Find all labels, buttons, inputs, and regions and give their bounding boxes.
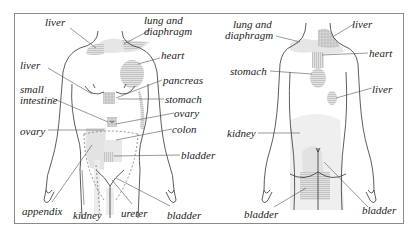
- back-shading: [290, 29, 344, 210]
- label-small: small: [20, 84, 44, 94]
- label-intestine: intestine: [20, 95, 57, 105]
- label-liver-front-shoulder: liver: [45, 17, 65, 27]
- label-pancreas: pancreas: [163, 75, 203, 85]
- label-appendix: appendix: [22, 206, 62, 216]
- label-bladder-front-upper: bladder: [181, 150, 215, 160]
- body-diagram: [0, 0, 416, 234]
- label-bladder-back-right: bladder: [362, 205, 396, 215]
- label-stomach-back: stomach: [230, 66, 267, 76]
- label-heart-back: heart: [369, 48, 392, 58]
- label-kidney-back: kidney: [227, 128, 256, 138]
- label-ovary-right: ovary: [174, 108, 199, 118]
- label-colon: colon: [172, 124, 196, 134]
- label-liver-front: liver: [20, 60, 40, 70]
- label-lung-and: lung and: [144, 15, 183, 25]
- front-shading: [86, 38, 151, 215]
- label-lung-and-back: lung and: [233, 19, 272, 29]
- label-kidney-front: kidney: [73, 210, 102, 220]
- label-ovary-left: ovary: [20, 126, 45, 136]
- label-diaphragm-back: diaphragm: [225, 30, 273, 40]
- label-heart: heart: [161, 50, 184, 60]
- label-bladder-front-lower: bladder: [167, 210, 201, 220]
- label-ureter: ureter: [121, 208, 147, 218]
- label-liver-back-shoulder: liver: [352, 19, 372, 29]
- label-bladder-back-left: bladder: [244, 209, 278, 219]
- label-diaphragm: diaphragm: [144, 26, 192, 36]
- label-liver-back: liver: [372, 84, 392, 94]
- label-stomach: stomach: [165, 94, 202, 104]
